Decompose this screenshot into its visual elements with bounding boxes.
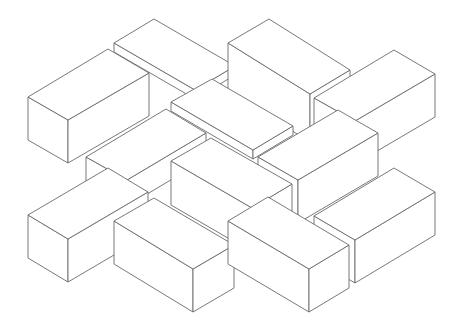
isometric-blocks-drawing xyxy=(0,0,457,331)
